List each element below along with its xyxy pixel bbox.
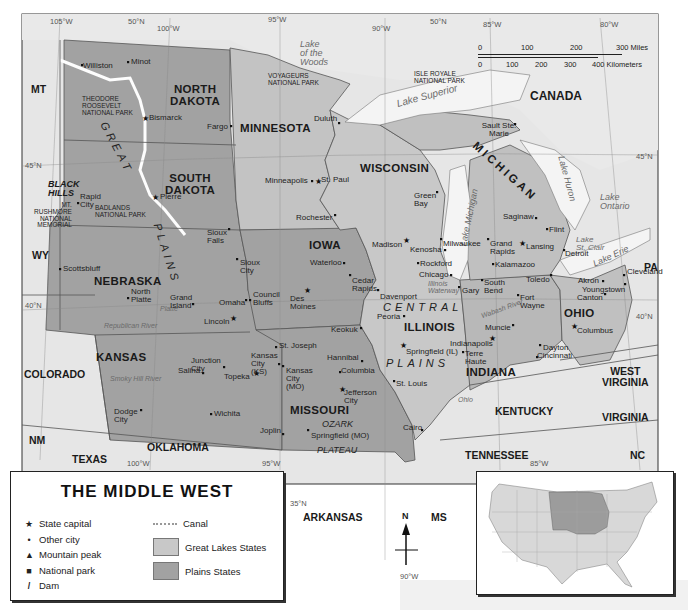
city-salina: Salina bbox=[178, 367, 200, 375]
city-marker bbox=[450, 274, 452, 276]
graticule-label: 50°N bbox=[430, 18, 447, 26]
star-icon: ★ bbox=[25, 519, 33, 529]
graticule-label: 80°W bbox=[600, 21, 618, 29]
city-sault-ste-marie: Sault Ste. Marie bbox=[480, 122, 518, 138]
city-marker bbox=[550, 274, 552, 276]
graticule-label: 100°W bbox=[127, 460, 150, 468]
city-st-joseph: St. Joseph bbox=[279, 342, 317, 350]
state-label-missouri: MISSOURI bbox=[290, 405, 349, 417]
inset-us-map bbox=[476, 471, 674, 595]
water-label-lake-ontario: Lake Ontario bbox=[600, 193, 630, 211]
state-label-nebraska: NEBRASKA bbox=[94, 276, 162, 288]
city-fargo: Fargo bbox=[207, 123, 228, 131]
city-marker bbox=[417, 262, 419, 264]
park-label-rushmore: MT. RUSHMORE NATIONAL MEMORIAL bbox=[34, 202, 72, 229]
city-saginaw: Saginaw bbox=[503, 213, 534, 221]
park-label-theodore-roosevelt: THEODORE ROOSEVELT NATIONAL PARK bbox=[82, 96, 133, 116]
graticule-label: 105°W bbox=[50, 18, 73, 26]
city-marker bbox=[228, 228, 230, 230]
city-green-bay: Green Bay bbox=[414, 192, 436, 208]
neighbor-label-colorado: COLORADO bbox=[24, 369, 85, 380]
city-madison: Madison bbox=[372, 241, 402, 249]
state-capital-marker: ★ bbox=[304, 286, 311, 295]
city-joplin: Joplin bbox=[260, 427, 281, 435]
neighbor-label-canada: CANADA bbox=[530, 90, 582, 102]
city-marker bbox=[127, 61, 129, 63]
city-marker bbox=[403, 315, 405, 317]
city-cincinnati: Cincinnati bbox=[537, 352, 572, 360]
city-marker bbox=[210, 413, 212, 415]
neighbor-label-west-virginia: WEST VIRGINIA bbox=[602, 366, 649, 387]
state-label-illinois: ILLINOIS bbox=[404, 322, 455, 334]
city-williston: Williston bbox=[83, 62, 113, 70]
graticule-label: 40°N bbox=[636, 313, 653, 321]
city-detroit: Detroit bbox=[565, 250, 589, 258]
state-capital-marker: ★ bbox=[403, 236, 410, 245]
city-marker bbox=[393, 380, 395, 382]
city-davenport: Davenport bbox=[380, 293, 417, 301]
city-rockford: Rockford bbox=[420, 260, 452, 268]
park-label-badlands: BADLANDS NATIONAL PARK bbox=[95, 205, 146, 219]
great-lakes-swatch bbox=[153, 538, 179, 556]
city-chicago: Chicago bbox=[419, 271, 448, 279]
scale-bar: 0 100 200 300 Miles 0 100 200 300 400 Ki… bbox=[478, 44, 678, 74]
city-indianapolis: Indianapolis bbox=[450, 340, 493, 348]
graticule-label: 85°W bbox=[530, 460, 548, 468]
city-marker bbox=[275, 346, 277, 348]
city-minneapolis: Minneapolis bbox=[265, 177, 308, 185]
state-label-ohio: OHIO bbox=[564, 308, 595, 320]
city-marker bbox=[278, 363, 280, 365]
city-lincoln: Lincoln bbox=[204, 318, 229, 326]
city-milwaukee: Milwaukee bbox=[443, 240, 481, 248]
city-muncie: Muncie bbox=[485, 324, 511, 332]
state-label-indiana: INDIANA bbox=[466, 367, 516, 379]
legend-item-mountain-peak: ▲ Mountain peak bbox=[25, 549, 101, 560]
state-capital-marker: ★ bbox=[142, 114, 149, 123]
state-capital-marker: ★ bbox=[519, 239, 526, 248]
city-marker bbox=[546, 228, 548, 230]
city-waterloo: Waterloo bbox=[310, 259, 342, 267]
city-kenosha: Kenosha bbox=[410, 246, 442, 254]
city-marker bbox=[77, 202, 79, 204]
city-st-louis: St. Louis bbox=[396, 380, 427, 388]
city-cedar-rapids: Cedar Rapids bbox=[352, 277, 378, 293]
city-toledo: Toledo bbox=[526, 276, 550, 284]
city-duluth: Duluth bbox=[314, 115, 337, 123]
city-peoria: Peoria bbox=[377, 313, 400, 321]
region-label-black-hills: BLACK HILLS bbox=[48, 180, 80, 198]
state-label-iowa: IOWA bbox=[309, 240, 341, 252]
city-marker bbox=[492, 263, 494, 265]
city-columbia: Columbia bbox=[341, 367, 375, 375]
graticule-label: 45°N bbox=[25, 162, 42, 170]
city-gary: Gary bbox=[462, 287, 479, 295]
city-grand-rapids: Grand Rapids bbox=[490, 240, 516, 256]
city-marker bbox=[512, 324, 514, 326]
city-scottsbluff: Scottsbluff bbox=[63, 265, 100, 273]
city-marker bbox=[307, 429, 309, 431]
city-marker bbox=[343, 262, 345, 264]
city-marker bbox=[311, 180, 313, 182]
dam-icon: / bbox=[25, 581, 33, 591]
city-marker bbox=[602, 280, 604, 282]
city-wichita: Wichita bbox=[214, 410, 240, 418]
legend-item-canal: Canal bbox=[153, 518, 208, 529]
city-marker bbox=[282, 365, 284, 367]
city-marker bbox=[444, 249, 446, 251]
city-canton: Canton bbox=[577, 294, 603, 302]
city-columbus: Columbus bbox=[577, 327, 613, 335]
city-marker bbox=[487, 238, 489, 240]
city-kalamazoo: Kalamazoo bbox=[495, 261, 535, 269]
graticule-label: 45°N bbox=[636, 153, 653, 161]
graticule-label: 35°N bbox=[290, 500, 307, 508]
city-grand-island: Grand Island bbox=[170, 294, 194, 310]
city-cairo: Cairo bbox=[403, 424, 422, 432]
graticule-label: 40°N bbox=[25, 302, 42, 310]
city-sioux-falls: Sioux Falls bbox=[207, 229, 227, 245]
legend-item-state-capital: ★ State capital bbox=[25, 518, 91, 529]
neighbor-label-kentucky: KENTUCKY bbox=[495, 406, 553, 417]
dot-icon: • bbox=[25, 535, 33, 545]
triangle-icon: ▲ bbox=[25, 550, 33, 560]
city-marker bbox=[517, 294, 519, 296]
legend-item-other-city: • Other city bbox=[25, 534, 80, 545]
city-marker bbox=[349, 274, 351, 276]
